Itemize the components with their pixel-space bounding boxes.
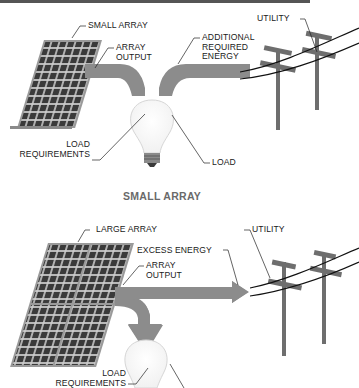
load-bulb-icon <box>125 340 167 388</box>
small-array-caption: SMALL ARRAY <box>123 190 201 202</box>
array-output-label: ARRAY OUTPUT <box>146 261 182 280</box>
additional-required-energy-label: ADDITIONAL REQUIRED ENERGY <box>202 33 255 62</box>
utility-poles-icon <box>268 250 342 356</box>
utility-poles-icon <box>260 31 336 130</box>
utility-wire <box>240 43 359 79</box>
utility-label: UTILITY <box>252 225 285 235</box>
load-bulb-icon <box>131 100 174 167</box>
utility-wire <box>250 262 359 296</box>
array-output-label: ARRAY OUTPUT <box>116 43 152 62</box>
load-requirements-label: LOAD REQUIREMENTS <box>40 369 126 388</box>
small-array-label: SMALL ARRAY <box>88 21 148 31</box>
utility-label: UTILITY <box>257 14 290 24</box>
small-array-frame-bottom <box>10 126 72 129</box>
small-solar-array-icon <box>17 40 102 128</box>
utility-wire <box>250 248 359 288</box>
large-array-label: LARGE ARRAY <box>96 225 157 235</box>
excess-energy-label: EXCESS ENERGY <box>137 246 212 256</box>
diagram-canvas: SMALL ARRAY ARRAY OUTPUT ADDITIONAL REQU… <box>0 0 359 388</box>
leader-lines <box>72 19 317 163</box>
load-label: LOAD <box>212 158 236 168</box>
load-requirements-label: LOAD REQUIREMENTS <box>6 140 90 159</box>
